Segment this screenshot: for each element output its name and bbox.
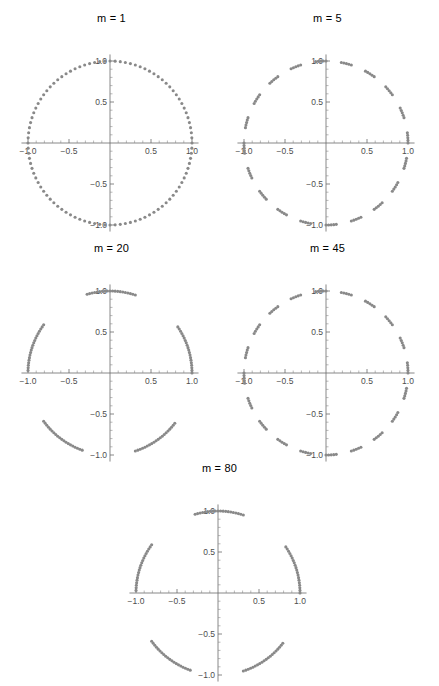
data-point	[56, 205, 59, 208]
data-point	[168, 85, 171, 88]
data-point	[152, 72, 155, 75]
data-point	[406, 131, 409, 134]
data-point	[103, 60, 106, 63]
x-tick-label: −0.5	[277, 146, 294, 156]
y-tick-label: 0.5	[311, 327, 323, 337]
data-point	[406, 361, 409, 364]
data-point	[42, 93, 45, 96]
x-tick-label: 0.5	[145, 376, 157, 386]
data-point	[42, 190, 45, 193]
data-point	[284, 545, 287, 548]
data-point	[143, 216, 146, 219]
data-point	[74, 216, 77, 219]
data-point	[399, 337, 402, 340]
data-point	[86, 293, 89, 296]
x-tick-label: 1.0	[186, 376, 198, 386]
scatter-panel-m-1: m = 1−1.0−0.50.51.01.00.5−0.5−1.0	[2, 12, 221, 237]
data-point	[381, 201, 384, 204]
data-point	[189, 157, 192, 160]
data-point	[74, 67, 77, 70]
data-point	[265, 198, 268, 201]
data-point	[52, 82, 55, 85]
data-point	[139, 65, 142, 68]
data-point	[114, 60, 117, 63]
data-point	[52, 201, 55, 204]
data-point	[190, 147, 193, 150]
x-tick-label: −0.5	[169, 596, 186, 606]
data-point	[28, 157, 31, 160]
data-point	[69, 213, 72, 216]
data-point	[119, 223, 122, 226]
data-point	[157, 75, 160, 78]
x-tick-label: 1.0	[402, 376, 414, 386]
data-point	[60, 208, 63, 211]
scatter-panel-m-45: m = 45−1.0−0.50.51.01.00.5−0.5−1.0	[218, 242, 437, 467]
data-point	[381, 431, 384, 434]
data-point	[56, 78, 59, 81]
data-point	[178, 185, 181, 188]
data-point	[65, 211, 68, 214]
data-point	[250, 406, 253, 409]
x-tick-label: 0.5	[145, 146, 157, 156]
data-point	[175, 190, 178, 193]
data-point	[290, 67, 293, 70]
x-tick-label: −1.0	[128, 596, 145, 606]
data-point	[134, 589, 137, 592]
data-point	[384, 315, 387, 318]
x-tick-label: −1.0	[20, 376, 37, 386]
data-point	[124, 222, 127, 225]
data-point	[396, 411, 399, 414]
plot-area: −1.0−0.50.51.01.00.5−0.5−1.0	[110, 462, 329, 686]
data-point	[340, 61, 343, 64]
data-point	[157, 208, 160, 211]
data-point	[83, 219, 86, 222]
data-point	[285, 213, 288, 216]
data-point	[250, 176, 253, 179]
data-point	[30, 167, 33, 170]
data-point	[185, 172, 188, 175]
x-tick-label: 0.5	[361, 376, 373, 386]
data-point	[243, 152, 246, 155]
data-point	[183, 107, 186, 110]
data-point	[190, 152, 193, 155]
data-point	[161, 78, 164, 81]
data-point	[78, 218, 81, 221]
data-point	[29, 162, 32, 165]
scatter-panel-m-5: m = 5−1.0−0.50.51.01.00.5−0.5−1.0	[218, 12, 437, 237]
data-point	[265, 428, 268, 431]
x-tick-label: −0.5	[61, 376, 78, 386]
data-point	[27, 147, 30, 150]
data-point	[399, 107, 402, 110]
y-tick-label: −1.0	[306, 450, 323, 460]
y-tick-label: −0.5	[306, 179, 323, 189]
data-point	[359, 446, 362, 449]
data-point	[190, 136, 193, 139]
data-point	[81, 449, 84, 452]
plot-area: −1.0−0.50.51.01.00.5−0.5−1.0	[2, 12, 221, 237]
y-tick-label: 0.5	[95, 97, 107, 107]
data-point	[39, 185, 42, 188]
x-tick-label: 0.5	[253, 596, 265, 606]
data-point	[108, 223, 111, 226]
data-point	[253, 332, 256, 335]
data-point	[129, 62, 132, 65]
data-point	[165, 201, 168, 204]
data-point	[134, 219, 137, 222]
data-point	[134, 63, 137, 66]
data-point	[253, 102, 256, 105]
data-point	[88, 62, 91, 65]
data-point	[314, 290, 317, 293]
data-point	[176, 325, 179, 328]
y-tick-label: 0.5	[95, 327, 107, 337]
data-point	[309, 452, 312, 455]
data-point	[335, 453, 338, 456]
data-point	[178, 98, 181, 101]
data-point	[364, 70, 367, 73]
data-point	[189, 126, 192, 129]
plot-area: −1.0−0.50.51.01.00.5−0.5−1.0	[2, 242, 221, 467]
data-point	[34, 107, 37, 110]
data-point	[173, 422, 176, 425]
y-tick-label: −0.5	[90, 409, 107, 419]
data-point	[37, 181, 40, 184]
